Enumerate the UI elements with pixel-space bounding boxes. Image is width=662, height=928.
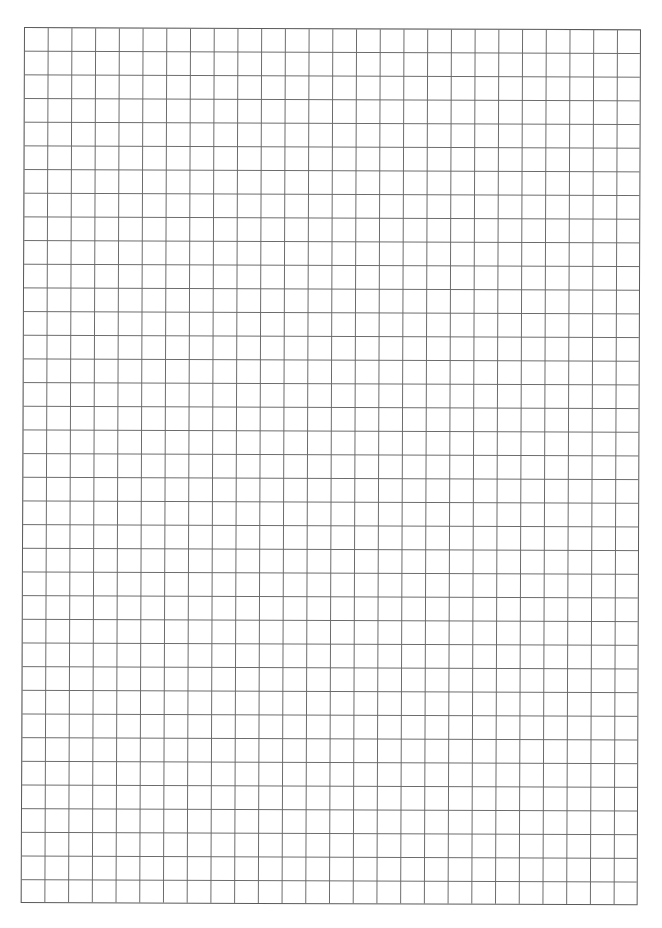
square-grid [21,27,641,905]
graph-paper-sheet [0,0,662,928]
